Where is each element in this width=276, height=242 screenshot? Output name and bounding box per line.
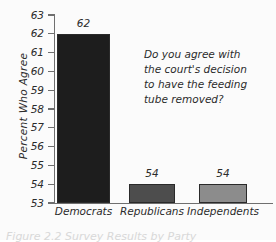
bar-value-label: 62 [47, 18, 120, 29]
x-axis-label-democrats: Democrats [43, 206, 124, 217]
y-axis-tick-label: 61 [14, 47, 44, 58]
question-annotation: Do you agree withthe court's decisionto … [144, 47, 268, 107]
x-axis-label-republicans: Republicans [115, 206, 189, 217]
y-axis-tick-label: 56 [14, 141, 44, 152]
bar-independents[interactable] [199, 184, 247, 203]
bar-republicans[interactable] [129, 184, 175, 203]
bar-value-label: 54 [189, 168, 257, 179]
bar-democrats[interactable] [57, 34, 110, 203]
x-axis-label-independents: Independents [185, 206, 261, 217]
y-axis-tick-label: 58 [14, 104, 44, 115]
y-axis-tick-label: 63 [14, 10, 44, 21]
y-axis-tick-label: 59 [14, 85, 44, 96]
figure-caption: Figure 2.2 Survey Results by Party [6, 231, 270, 242]
annotation-line: the court's decision [144, 62, 268, 77]
y-axis-tick-label: 53 [14, 198, 44, 209]
y-axis-tick-label: 55 [14, 160, 44, 171]
annotation-line: tube removed? [144, 92, 268, 107]
bar-value-label: 54 [119, 168, 185, 179]
annotation-line: Do you agree with [144, 47, 268, 62]
annotation-line: to have the feeding [144, 77, 268, 92]
y-axis-tick-label: 62 [14, 28, 44, 39]
y-axis-tick-label: 60 [14, 66, 44, 77]
y-axis-tick-label: 54 [14, 179, 44, 190]
y-axis-tick-label: 57 [14, 122, 44, 133]
